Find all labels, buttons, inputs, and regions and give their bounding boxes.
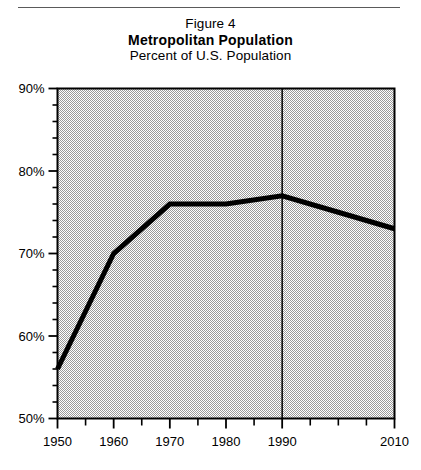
x-axis-tick-labels: 195019601970198019902010: [43, 434, 409, 449]
plot-background: [58, 89, 395, 419]
x-axis-tick-label: 2010: [380, 434, 409, 449]
y-axis-tick-label: 80%: [18, 164, 44, 179]
y-axis-tick-labels: 50%60%70%80%90%: [18, 81, 44, 426]
y-axis-tick-label: 70%: [18, 246, 44, 261]
x-axis-tick-label: 1970: [155, 434, 184, 449]
figure-container: Figure 4 Metropolitan Population Percent…: [0, 0, 421, 470]
x-axis-ticks: [58, 419, 395, 429]
y-axis-tick-label: 60%: [18, 329, 44, 344]
x-axis-tick-label: 1980: [212, 434, 241, 449]
chart-area: 50%60%70%80%90% 195019601970198019902010: [0, 0, 421, 470]
x-axis-tick-label: 1960: [99, 434, 128, 449]
y-axis-tick-label: 90%: [18, 81, 44, 96]
x-axis-tick-label: 1950: [43, 434, 72, 449]
x-axis-tick-label: 1990: [268, 434, 297, 449]
y-axis-tick-label: 50%: [18, 411, 44, 426]
line-chart-svg: 50%60%70%80%90% 195019601970198019902010: [0, 0, 421, 470]
